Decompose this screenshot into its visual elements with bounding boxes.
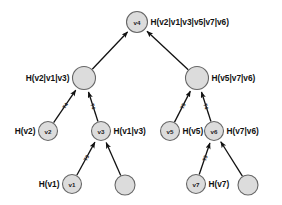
node-id-v4: v4 (134, 19, 141, 26)
node-id-v7: v7 (193, 181, 200, 188)
node-u1[interactable] (115, 175, 135, 195)
node-v5[interactable]: v5 (161, 122, 180, 141)
node-v1[interactable]: v1 (63, 175, 82, 194)
node-u2[interactable] (238, 175, 258, 195)
node-n_l[interactable] (73, 67, 96, 90)
diagram-canvas: T4T4T5T4T3T3 v4v2v3v5v6v1v7 H(v2|v1|v3|v… (0, 0, 282, 205)
hash-label-v2: H(v2) (15, 126, 36, 136)
node-circle-n_r[interactable] (186, 67, 209, 90)
edge-label-v5-to-n_r: T5 (179, 102, 187, 110)
edge-n_r-to-v4 (147, 31, 188, 69)
node-circle-u1[interactable] (115, 175, 135, 195)
node-id-v5: v5 (167, 128, 174, 135)
edge-label-v2-to-n_l: T4 (61, 102, 69, 110)
hash-label-v5: H(v5) (183, 126, 204, 136)
hash-label-v3: H(v1|v3) (114, 126, 147, 136)
hash-label-v1: H(v1) (39, 179, 60, 189)
node-id-v3: v3 (98, 128, 105, 135)
node-v4[interactable]: v4 (127, 12, 148, 33)
edges-layer (54, 31, 243, 176)
hash-label-v7: H(v7) (209, 179, 230, 189)
node-circle-n_l[interactable] (73, 67, 96, 90)
hash-label-v4: H(v2|v1|v3|v5|v7|v6) (151, 17, 230, 27)
edge-label-v1-to-v3: T3 (82, 154, 90, 162)
node-circle-u2[interactable] (238, 175, 258, 195)
edge-label-v3-to-n_l: T4 (89, 102, 97, 110)
nodes-layer: v4v2v3v5v6v1v7 (39, 12, 259, 196)
hash-label-n_l: H(v2|v1|v3) (26, 73, 70, 83)
node-v7[interactable]: v7 (187, 175, 206, 194)
node-id-v1: v1 (69, 181, 76, 188)
hash-label-n_r: H(v5|v7|v6) (212, 73, 256, 83)
edge-n_l-to-v4 (92, 32, 127, 69)
node-id-v6: v6 (211, 128, 218, 135)
hash-label-v6: H(v7|v6) (227, 126, 260, 136)
node-v6[interactable]: v6 (205, 122, 224, 141)
hash-tree-diagram: T4T4T5T4T3T3 v4v2v3v5v6v1v7 H(v2|v1|v3|v… (0, 0, 282, 205)
node-v3[interactable]: v3 (92, 122, 111, 141)
edge-u2-to-v6 (221, 142, 243, 176)
node-id-v2: v2 (45, 128, 52, 135)
node-v2[interactable]: v2 (39, 122, 58, 141)
hash-labels-layer: H(v2|v1|v3|v5|v7|v6)H(v2|v1|v3)H(v5|v7|v… (15, 17, 259, 189)
edge-label-v7-to-v6: T3 (201, 154, 209, 162)
edge-label-v6-to-n_r: T4 (202, 102, 210, 110)
node-n_r[interactable] (186, 67, 209, 90)
edge-u1-to-v3 (106, 143, 121, 176)
